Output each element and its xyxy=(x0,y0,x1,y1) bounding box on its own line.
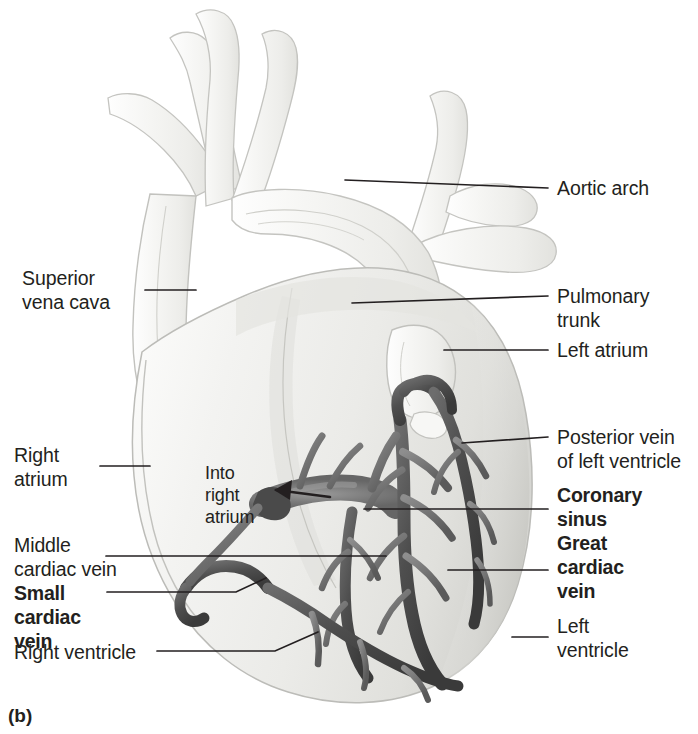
label-posterior-vein-of-left-ventricle: Posterior vein of left ventricle xyxy=(557,425,681,473)
vessel-branch-right-lateral-upper xyxy=(446,184,537,227)
label-pulmonary-trunk: Pulmonary trunk xyxy=(557,284,649,332)
vessel-branch-right-upper xyxy=(408,91,468,254)
annotation-into-right-atrium: Into right atrium xyxy=(205,462,254,528)
label-aortic-arch: Aortic arch xyxy=(557,176,649,200)
label-superior-vena-cava: Superior vena cava xyxy=(22,266,110,314)
label-right-ventricle: Right ventricle xyxy=(14,640,136,664)
label-left-ventricle: Left ventricle xyxy=(557,614,629,662)
label-right-atrium: Right atrium xyxy=(14,443,68,491)
label-great-cardiac-vein: Great cardiac vein xyxy=(557,531,624,603)
figure-caption: (b) xyxy=(8,705,32,727)
label-middle-cardiac-vein: Middle cardiac vein xyxy=(14,533,117,581)
label-coronary-sinus: Coronary sinus xyxy=(557,483,642,531)
heart-posterior-view-figure: Aortic arch Superior vena cava Pulmonary… xyxy=(0,0,698,734)
vessel-branch-mid xyxy=(232,30,298,208)
label-left-atrium: Left atrium xyxy=(557,338,648,362)
